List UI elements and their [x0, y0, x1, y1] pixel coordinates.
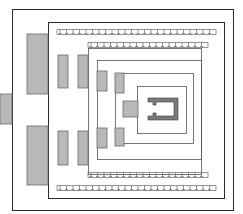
approach-block — [0, 94, 12, 124]
fourth-pylon-south — [97, 128, 107, 148]
fifth-pylon-south — [115, 128, 124, 146]
dentil-row-top-inner — [88, 43, 208, 48]
dentil-row-bottom-outer — [57, 186, 216, 191]
fourth-pylon-north — [97, 71, 107, 91]
inner-sanctum-wall — [138, 87, 187, 134]
dentil-row-top-outer — [57, 30, 216, 35]
main-gate-north — [27, 34, 48, 94]
second-pylon-south — [58, 131, 68, 165]
sanctum-shrine — [148, 98, 178, 120]
temple-floor-plan — [0, 0, 243, 214]
pylon-blocks — [0, 34, 138, 185]
fifth-pylon-north — [115, 73, 124, 93]
fourth-enclosure-wall — [98, 61, 202, 160]
third-enclosure-wall — [89, 49, 202, 175]
dentil-row-bottom-inner — [88, 173, 208, 178]
shrine-u-block — [148, 98, 178, 120]
vestibule-block — [123, 101, 138, 117]
main-gate-south — [27, 126, 48, 185]
second-pylon-north — [58, 55, 68, 88]
third-pylon-north — [78, 55, 88, 88]
third-pylon-south — [78, 131, 88, 165]
